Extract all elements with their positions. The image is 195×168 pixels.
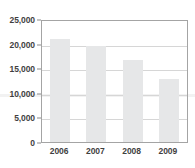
bar-2006 (50, 39, 70, 142)
x-tick-label: 2007 (86, 146, 105, 156)
bar-2007 (86, 46, 106, 142)
bar-2009 (159, 79, 179, 142)
plot-area (41, 20, 188, 143)
x-tick-label: 2009 (159, 146, 178, 156)
y-tick-mark (37, 93, 41, 94)
y-tick-label: 20,000 (10, 40, 35, 50)
y-tick-mark (37, 20, 41, 21)
bar-2008 (123, 60, 143, 142)
bars-layer (42, 21, 187, 142)
bar-chart-figure: 25,000 20,000 15,000 10,000 5,000 0 2006… (0, 0, 195, 168)
y-tick-label: 15,000 (10, 64, 35, 74)
y-tick-mark (37, 143, 41, 144)
y-tick-mark (37, 118, 41, 119)
y-tick-label: 5,000 (14, 113, 35, 123)
y-axis: 25,000 20,000 15,000 10,000 5,000 0 (0, 0, 38, 168)
y-tick-mark (37, 69, 41, 70)
x-axis: 2006200720082009 (41, 146, 188, 166)
y-tick-label: 25,000 (10, 15, 35, 25)
x-tick-label: 2006 (50, 146, 69, 156)
y-tick-label: 0 (30, 138, 35, 148)
y-tick-label: 10,000 (10, 89, 35, 99)
x-tick-label: 2008 (122, 146, 141, 156)
y-tick-mark (37, 44, 41, 45)
